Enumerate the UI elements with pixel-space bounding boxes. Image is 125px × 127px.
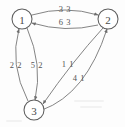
edge-label-1-to-3: 5 2 xyxy=(31,60,43,70)
diagram-canvas: 1 2 3 3 3 6 3 2 2 5 2 1 1 4 1 xyxy=(0,0,125,127)
edge-label-2-to-3: 1 1 xyxy=(62,59,74,69)
node-3-label: 3 xyxy=(31,105,37,117)
scan-artifacts xyxy=(6,100,104,122)
node-1-label: 1 xyxy=(19,14,25,26)
edge-label-3-to-1: 2 2 xyxy=(10,60,22,70)
edge-label-3-to-2: 4 1 xyxy=(73,73,85,83)
edge-label-2-to-1: 6 3 xyxy=(59,17,71,27)
node-2-label: 2 xyxy=(105,14,111,26)
graph-svg: 1 2 3 3 3 6 3 2 2 5 2 1 1 4 1 xyxy=(0,0,125,127)
edge-label-1-to-2: 3 3 xyxy=(59,4,71,14)
edge-3-to-2 xyxy=(42,29,107,110)
